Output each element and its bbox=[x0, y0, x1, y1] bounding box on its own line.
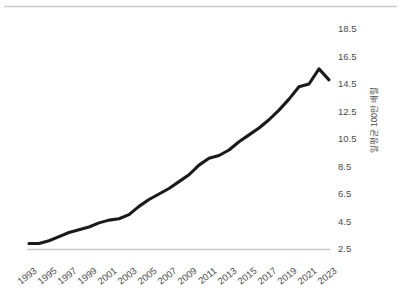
x-tick-label: 2017 bbox=[255, 265, 278, 287]
x-tick-label: 2013 bbox=[215, 265, 238, 287]
y-tick-label: 4.5 bbox=[338, 216, 351, 227]
y-tick-label: 12.5 bbox=[338, 106, 357, 117]
x-tick-label: 2001 bbox=[95, 265, 118, 287]
x-tick-label: 2021 bbox=[295, 265, 318, 287]
series-group bbox=[29, 69, 329, 244]
x-tick-label: 1993 bbox=[15, 265, 38, 287]
y-tick-label: 8.5 bbox=[338, 161, 351, 172]
chart-container: 2.54.56.58.510.512.514.516.518.5 1993199… bbox=[0, 0, 401, 298]
y-tick-label: 6.5 bbox=[338, 188, 351, 199]
y-axis-title: 일평균 100만 배럴 bbox=[369, 87, 379, 154]
x-axis-tick-labels: 1993199519971999200120032005200720092011… bbox=[15, 265, 338, 287]
y-tick-label: 16.5 bbox=[338, 51, 357, 62]
x-tick-label: 2023 bbox=[315, 265, 338, 287]
y-tick-label: 10.5 bbox=[338, 133, 357, 144]
x-tick-label: 2009 bbox=[175, 265, 198, 287]
x-tick-label: 2007 bbox=[155, 265, 178, 287]
x-tick-label: 2015 bbox=[235, 265, 258, 287]
x-tick-label: 2019 bbox=[275, 265, 298, 287]
line-chart: 2.54.56.58.510.512.514.516.518.5 1993199… bbox=[0, 0, 401, 298]
x-tick-label: 2011 bbox=[196, 265, 219, 286]
y-tick-label: 14.5 bbox=[338, 78, 357, 89]
x-tick-label: 1995 bbox=[35, 265, 58, 287]
x-tick-label: 1997 bbox=[55, 265, 78, 287]
series-line bbox=[29, 69, 329, 244]
y-axis-tick-labels: 2.54.56.58.510.512.514.516.518.5 bbox=[338, 23, 357, 254]
y-tick-label: 2.5 bbox=[338, 243, 351, 254]
x-tick-label: 2003 bbox=[115, 265, 138, 287]
x-tick-label: 1999 bbox=[75, 265, 98, 287]
x-tick-label: 2005 bbox=[135, 265, 158, 287]
y-tick-label: 18.5 bbox=[338, 23, 357, 34]
